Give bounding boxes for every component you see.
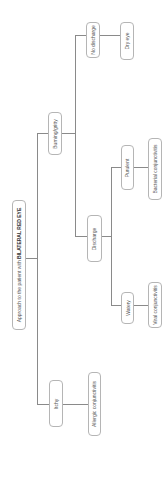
node-label: Watery [125, 300, 131, 316]
node-label: Bacterial conjunctivitis [152, 144, 158, 193]
root-title-prefix: Approach to the patient with [16, 259, 22, 322]
connector-watery-viral [134, 305, 148, 306]
connector-root-vertical [37, 133, 38, 405]
node-dry-eye: Dry eye [120, 22, 134, 60]
node-purulent: Purulent [121, 145, 134, 190]
node-discharge: Discharge [87, 215, 102, 262]
connector-to-itchy [37, 404, 49, 405]
connector-root [26, 258, 37, 259]
connector-purulent-bacterial [134, 167, 148, 168]
node-label: Purulent [125, 158, 131, 177]
node-label: No discharge [90, 25, 96, 54]
connector-discharge-vertical [111, 167, 112, 306]
connector-to-no-discharge [75, 35, 86, 36]
node-allergic-conjunctivitis: Allergic conjunctivitis [88, 372, 101, 436]
connector-burning-vertical [75, 35, 76, 237]
root-title-emphasis: BILATERAL RED EYE [16, 208, 22, 259]
connector-discharge-out [102, 236, 111, 237]
node-watery: Watery [121, 292, 134, 324]
connector-to-purulent [111, 167, 121, 168]
node-label: Burning/gritty [52, 119, 58, 148]
node-root: Approach to the patient with BILATERAL R… [12, 200, 26, 330]
node-bacterial-conjunctivitis: Bacterial conjunctivitis [148, 138, 162, 200]
connector-no-discharge-dry-eye [100, 35, 120, 36]
node-label: Allergic conjunctivitis [92, 381, 98, 427]
node-label: Viral conjunctivitis [152, 285, 158, 325]
node-label: Dry eye [124, 32, 130, 49]
connector-to-watery [111, 305, 121, 306]
node-no-discharge: No discharge [86, 22, 100, 58]
connector-burning-out [62, 133, 75, 134]
node-burning-gritty: Burning/gritty [48, 112, 62, 155]
node-label: Discharge [92, 227, 98, 250]
connector-to-discharge [75, 236, 87, 237]
node-viral-conjunctivitis: Viral conjunctivitis [148, 282, 162, 328]
connector-itchy-allergic [63, 404, 88, 405]
connector-to-burning [37, 133, 48, 134]
node-label: Itchy [53, 398, 59, 409]
node-itchy: Itchy [49, 380, 63, 427]
